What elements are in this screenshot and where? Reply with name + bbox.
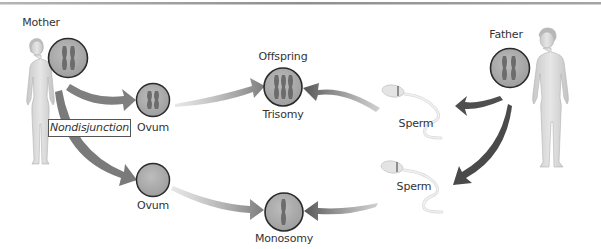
sperm-top-label: Sperm — [399, 117, 434, 130]
arrow-ovum-bottom-to-monosomy — [171, 186, 264, 220]
arrow-father-to-sperm-top — [455, 96, 503, 116]
father-label: Father — [489, 28, 522, 41]
father-cell — [491, 49, 530, 88]
father-figure — [533, 28, 569, 167]
nondisjunction-label: Nondisjunction — [48, 119, 131, 137]
ovum-bottom-label: Ovum — [137, 199, 169, 212]
trisomy-label: Trisomy — [263, 108, 304, 121]
top-rule — [0, 2, 601, 5]
arrow-sperm-bottom-to-monosomy — [304, 201, 378, 221]
arrow-father-to-sperm-bottom — [453, 104, 512, 185]
ovum-top-label: Ovum — [137, 121, 169, 134]
monosomy-cell — [265, 193, 303, 231]
arrow-mother-to-ovum-top — [66, 84, 136, 111]
nondisjunction-diagram: Mother Father Nondisjunction Ovum Ovum O… — [0, 0, 601, 249]
ovum-top-cell — [137, 84, 170, 117]
trisomy-cell — [264, 68, 302, 106]
mother-label: Mother — [22, 16, 60, 29]
sperm-bottom-label: Sperm — [397, 180, 432, 193]
offspring-label: Offspring — [259, 50, 308, 63]
mother-cell — [49, 39, 88, 78]
arrow-sperm-top-to-trisomy — [303, 83, 380, 112]
monosomy-label: Monosomy — [255, 232, 313, 245]
arrow-ovum-top-to-trisomy — [175, 78, 265, 107]
ovum-bottom-cell — [137, 164, 170, 197]
